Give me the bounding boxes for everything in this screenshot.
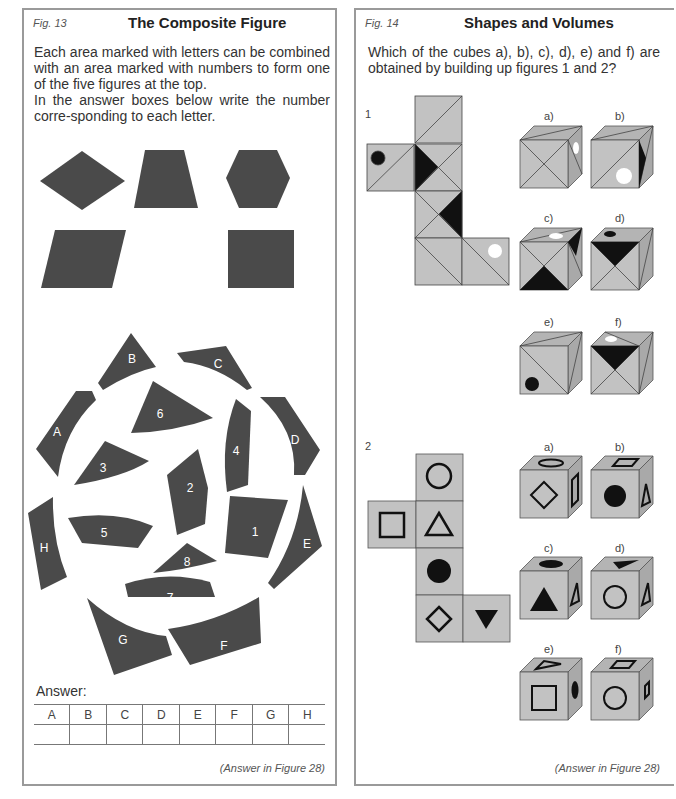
answer-col-F: F bbox=[216, 705, 252, 725]
answer-input-row bbox=[34, 725, 325, 745]
cube-2f bbox=[591, 658, 653, 720]
piece-label-H: H bbox=[40, 541, 49, 555]
cube-1a bbox=[520, 126, 582, 188]
cube-1d bbox=[591, 228, 653, 290]
piece-label-1: 1 bbox=[252, 525, 259, 539]
piece-6 bbox=[131, 381, 213, 433]
piece-label-2: 2 bbox=[187, 481, 194, 495]
answer-col-H: H bbox=[289, 705, 325, 725]
black-dot-icon bbox=[371, 151, 385, 165]
target-rectangle-shape bbox=[228, 230, 294, 288]
piece-label-5: 5 bbox=[101, 526, 108, 540]
piece-label-D: D bbox=[291, 433, 300, 447]
piece-label-7: 7 bbox=[167, 591, 174, 605]
cube-1f bbox=[591, 332, 653, 394]
composite-figure-art: B C A D H E G F 6 4 3 2 1 5 8 7 bbox=[24, 10, 339, 690]
piece-label-G: G bbox=[118, 633, 127, 647]
piece-3 bbox=[74, 441, 149, 485]
cube-2b bbox=[591, 456, 653, 518]
piece-label-C: C bbox=[214, 357, 223, 371]
cube-2e bbox=[520, 658, 582, 720]
answer-box-H[interactable] bbox=[289, 725, 325, 745]
composite-figure-panel: Fig. 13 The Composite Figure Each area m… bbox=[22, 8, 337, 786]
cube-1b bbox=[591, 126, 653, 188]
piece-label-8: 8 bbox=[184, 555, 191, 569]
answer-col-B: B bbox=[70, 705, 106, 725]
cube-2d bbox=[591, 557, 653, 619]
piece-A bbox=[36, 391, 96, 477]
piece-label-E: E bbox=[303, 537, 311, 551]
answer-label: Answer: bbox=[36, 683, 87, 699]
answer-box-B[interactable] bbox=[70, 725, 106, 745]
white-dot-icon bbox=[488, 244, 502, 258]
target-parallelogram-shape bbox=[41, 230, 126, 288]
answer-box-A[interactable] bbox=[34, 725, 70, 745]
cube-1e bbox=[520, 332, 582, 394]
cube-1c bbox=[520, 228, 582, 290]
net-1 bbox=[367, 96, 509, 285]
answer-col-C: C bbox=[106, 705, 143, 725]
answer-reference: (Answer in Figure 28) bbox=[220, 762, 325, 774]
piece-label-3: 3 bbox=[100, 461, 107, 475]
filled-circle-icon bbox=[427, 559, 451, 583]
piece-F bbox=[168, 597, 261, 665]
answer-col-E: E bbox=[179, 705, 215, 725]
piece-label-A: A bbox=[53, 425, 61, 439]
target-rhombus-shape bbox=[40, 151, 125, 210]
answer-box-E[interactable] bbox=[179, 725, 215, 745]
answer-box-G[interactable] bbox=[252, 725, 289, 745]
answer-col-A: A bbox=[34, 705, 70, 725]
shapes-volumes-panel: Fig. 14 Shapes and Volumes Which of the … bbox=[354, 8, 674, 786]
piece-label-4: 4 bbox=[233, 444, 240, 458]
piece-label-B: B bbox=[128, 352, 136, 366]
cube-2a bbox=[520, 456, 582, 518]
answer-header-row: A B C D E F G H bbox=[34, 705, 325, 725]
answer-col-D: D bbox=[143, 705, 180, 725]
piece-G bbox=[87, 598, 172, 675]
answer-box-C[interactable] bbox=[106, 725, 143, 745]
answer-table: A B C D E F G H bbox=[34, 704, 325, 745]
target-trapezoid-shape bbox=[134, 150, 198, 208]
answer-box-D[interactable] bbox=[143, 725, 180, 745]
target-hexagon-shape bbox=[226, 150, 290, 208]
answer-reference: (Answer in Figure 28) bbox=[555, 762, 660, 774]
piece-label-F: F bbox=[220, 639, 227, 653]
piece-label-6: 6 bbox=[157, 407, 164, 421]
piece-5 bbox=[68, 515, 153, 548]
answer-box-F[interactable] bbox=[216, 725, 252, 745]
cube-2c bbox=[520, 557, 582, 619]
cube-puzzle-art bbox=[356, 10, 676, 780]
answer-col-G: G bbox=[252, 705, 289, 725]
